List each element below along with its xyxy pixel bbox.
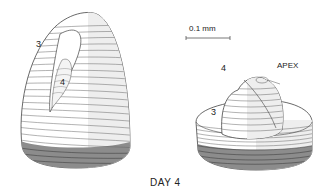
left-label-primordium-4: 4	[60, 78, 65, 87]
apex-reconstruction-figure	[0, 0, 330, 192]
right-apex-model	[190, 70, 320, 180]
left-label-primordium-3: 3	[36, 40, 41, 49]
right-label-primordium-3: 3	[211, 108, 216, 117]
left-apex-model	[10, 0, 140, 192]
scale-bar	[186, 36, 230, 40]
scale-bar-label: 0.1 mm	[189, 24, 216, 33]
figure-caption: DAY 4	[150, 177, 180, 188]
right-label-apex: APEX	[277, 62, 298, 70]
right-label-primordium-4: 4	[221, 64, 226, 73]
